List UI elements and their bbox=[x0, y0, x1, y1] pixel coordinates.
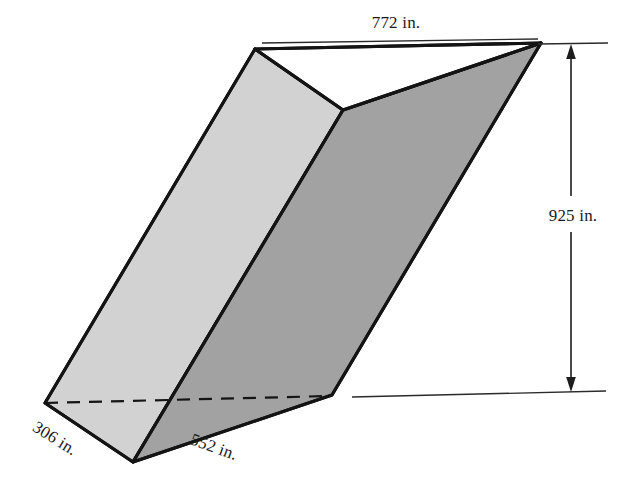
label-vertical-height: 925 in. bbox=[549, 206, 598, 225]
label-top-edge: 772 in. bbox=[372, 13, 421, 32]
prism-figure: 772 in. 925 in. 306 in. 552 in. bbox=[0, 0, 637, 485]
prism-svg: 772 in. 925 in. 306 in. 552 in. bbox=[0, 0, 637, 485]
